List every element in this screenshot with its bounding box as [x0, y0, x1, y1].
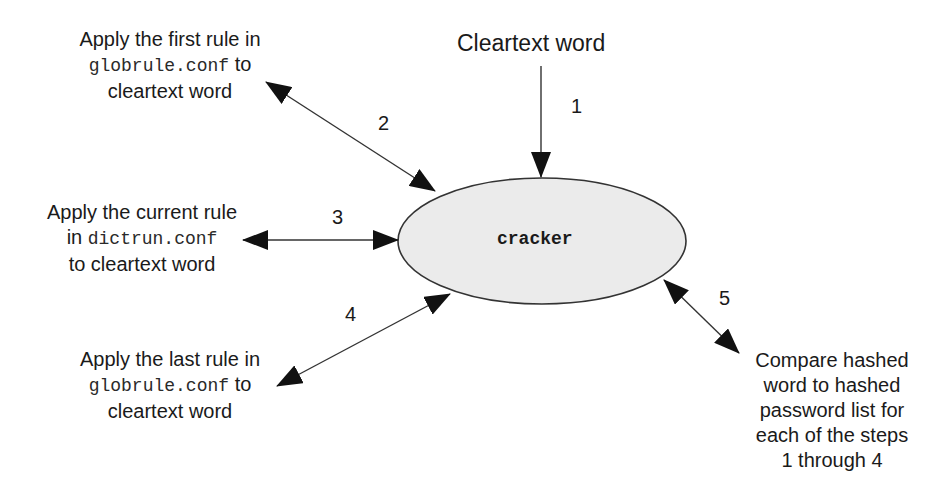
- step-2-line-2-suffix: to: [229, 53, 251, 75]
- step-5-line-3: password list for: [732, 398, 932, 423]
- step-5-line-5: 1 through 4: [732, 448, 932, 473]
- step-2-line-2: globrule.conf to: [55, 52, 285, 79]
- step-3-line-1: Apply the current rule: [22, 200, 262, 225]
- step-4-line-3: cleartext word: [55, 399, 285, 424]
- step-number-1: 1: [571, 95, 582, 117]
- step-number-3: 3: [332, 206, 343, 228]
- arrow-step-4: [277, 294, 450, 386]
- config-file-dictrun: dictrun.conf: [88, 229, 218, 249]
- step-3-description: Apply the current rule in dictrun.conf t…: [22, 200, 262, 277]
- step-5-line-4: each of the steps: [732, 423, 932, 448]
- cracker-node-label: cracker: [497, 229, 573, 249]
- step-number-2: 2: [378, 112, 389, 134]
- step-3-line-3: to cleartext word: [22, 252, 262, 277]
- cleartext-word-label: Cleartext word: [457, 30, 605, 57]
- step-3-line-2: in dictrun.conf: [22, 225, 262, 252]
- diagram-canvas: Cleartext word cracker 1 2 3 4 5 Apply t…: [0, 0, 950, 497]
- step-5-line-1: Compare hashed: [732, 348, 932, 373]
- step-4-line-1: Apply the last rule in: [55, 347, 285, 372]
- step-4-description: Apply the last rule in globrule.conf to …: [55, 347, 285, 424]
- config-file-globrule: globrule.conf: [89, 376, 229, 396]
- config-file-globrule: globrule.conf: [89, 56, 229, 76]
- step-5-line-2: word to hashed: [732, 373, 932, 398]
- step-4-line-2: globrule.conf to: [55, 372, 285, 399]
- step-5-description: Compare hashed word to hashed password l…: [732, 348, 932, 473]
- step-number-4: 4: [345, 303, 356, 325]
- step-4-line-2-suffix: to: [229, 373, 251, 395]
- step-3-line-2-prefix: in: [67, 226, 88, 248]
- arrow-step-2: [266, 82, 435, 191]
- step-2-description: Apply the first rule in globrule.conf to…: [55, 27, 285, 104]
- step-2-line-1: Apply the first rule in: [55, 27, 285, 52]
- step-2-line-3: cleartext word: [55, 79, 285, 104]
- step-number-5: 5: [719, 287, 730, 309]
